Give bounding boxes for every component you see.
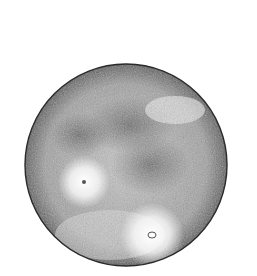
ray-crater-right (120, 203, 184, 267)
moon-illustration (0, 0, 257, 276)
crater-left-center (82, 180, 86, 184)
